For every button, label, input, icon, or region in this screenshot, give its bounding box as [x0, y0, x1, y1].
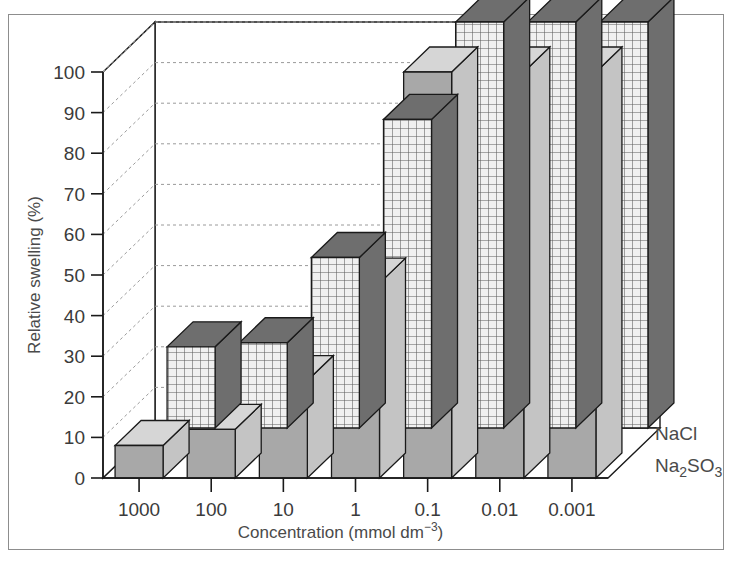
bar-side — [576, 0, 602, 428]
x-axis-title-suffix: ) — [438, 523, 444, 542]
y-tick-label: 100 — [53, 62, 85, 83]
bar-front — [167, 347, 215, 428]
y-axis-title: Relative swelling (%) — [25, 196, 44, 354]
y-tick-label: 50 — [64, 265, 85, 286]
y-tick-label: 0 — [74, 468, 85, 489]
bar-side — [359, 232, 385, 428]
x-tick-label: 100 — [195, 499, 227, 520]
x-axis-title: Concentration (mmol dm−3) — [238, 520, 443, 542]
y-tick-label: 20 — [64, 387, 85, 408]
legend-so: SO — [687, 455, 714, 476]
x-axis-title-superscript: −3 — [424, 520, 438, 534]
x-axis-ticks: 10001001010.10.010.001 — [118, 478, 596, 520]
x-axis-title-main: Concentration (mmol dm — [238, 523, 424, 542]
legend-label-na2so3: Na2SO3 — [655, 455, 723, 480]
y-tick-label: 10 — [64, 427, 85, 448]
y-tick-label: 70 — [64, 184, 85, 205]
bar-side — [432, 94, 458, 428]
x-tick-label: 0.001 — [548, 499, 596, 520]
legend-na: Na — [655, 455, 680, 476]
bar-front — [187, 429, 235, 478]
y-tick-label: 40 — [64, 306, 85, 327]
y-tick-label: 80 — [64, 143, 85, 164]
x-tick-label: 10 — [273, 499, 294, 520]
bar-na2so3 — [167, 322, 241, 428]
bar-side — [504, 0, 530, 428]
x-tick-label: 0.1 — [414, 499, 440, 520]
legend: NaClNa2SO3 — [655, 423, 723, 480]
y-tick-label: 60 — [64, 224, 85, 245]
plot-area: 010203040506070809010010001001010.10.010… — [25, 0, 723, 542]
chart-canvas: 010203040506070809010010001001010.10.010… — [0, 0, 734, 564]
x-tick-label: 1 — [350, 499, 361, 520]
x-tick-label: 1000 — [118, 499, 160, 520]
legend-sub-3: 3 — [715, 464, 723, 480]
x-tick-label: 0.01 — [481, 499, 518, 520]
legend-label-nacl: NaCl — [655, 423, 697, 444]
bar-front — [115, 446, 163, 478]
chart-figure: 010203040506070809010010001001010.10.010… — [0, 0, 734, 564]
legend-sub-2: 2 — [679, 464, 687, 480]
y-axis-ticks: 0102030405060708090100 — [53, 62, 103, 489]
y-tick-label: 90 — [64, 103, 85, 124]
y-tick-label: 30 — [64, 346, 85, 367]
bar-side — [648, 0, 674, 428]
